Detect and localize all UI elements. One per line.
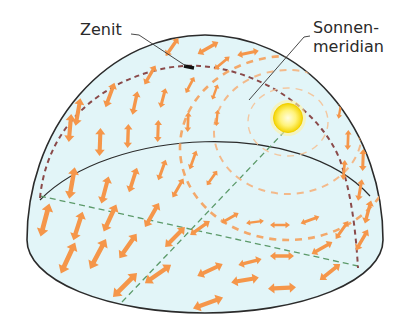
sun-icon (270, 100, 306, 136)
zenit-label: Zenit (80, 20, 122, 39)
sonnenmeridian-label-line1: Sonnen- (313, 18, 384, 37)
sonnenmeridian-label: Sonnen- meridian (313, 18, 384, 56)
zenith-marker (184, 66, 194, 68)
sonnenmeridian-label-line2: meridian (313, 37, 384, 56)
